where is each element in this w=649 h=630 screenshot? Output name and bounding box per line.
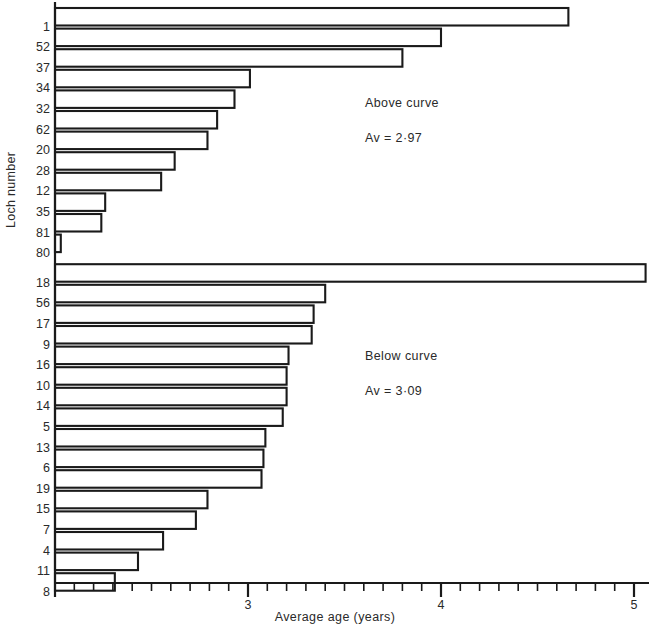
y-tick-label: 9 (22, 338, 50, 352)
bar (55, 29, 441, 46)
y-tick-label: 14 (22, 399, 50, 413)
bar (55, 347, 289, 365)
y-tick-label: 28 (22, 164, 50, 178)
y-tick-label: 35 (22, 205, 50, 219)
bar (55, 491, 207, 509)
y-tick-label: 11 (22, 564, 50, 578)
y-tick-label: 20 (22, 143, 50, 157)
y-tick-label: 12 (22, 184, 50, 198)
chart-plot-area (0, 0, 649, 630)
bar (55, 326, 312, 344)
bar (55, 173, 161, 191)
y-tick-label: 13 (22, 441, 50, 455)
x-tick-label: 3 (245, 598, 252, 612)
bar (55, 70, 250, 88)
bar (55, 90, 234, 108)
y-tick-label: 32 (22, 102, 50, 116)
bar (55, 152, 175, 170)
y-tick-label: 19 (22, 482, 50, 496)
bar (55, 305, 314, 323)
bar (55, 285, 325, 303)
y-tick-label: 17 (22, 317, 50, 331)
bar (55, 111, 217, 129)
y-tick-label: 5 (22, 420, 50, 434)
bar (55, 388, 287, 406)
bar (55, 532, 163, 550)
x-tick-label: 4 (438, 598, 445, 612)
y-tick-label: 80 (22, 246, 50, 260)
y-tick-label: 56 (22, 296, 50, 310)
bar (55, 264, 646, 282)
annotation-below-curve-average: Av = 3·09 (365, 384, 422, 398)
bars-layer (55, 8, 646, 591)
y-tick-label: 7 (22, 523, 50, 537)
bar (55, 132, 207, 150)
x-tick-label: 5 (631, 598, 638, 612)
y-tick-label: 15 (22, 502, 50, 516)
x-axis-label: Average age (years) (275, 610, 396, 624)
bar (55, 429, 265, 447)
y-tick-label: 8 (22, 585, 50, 599)
bar (55, 511, 196, 529)
chart-figure: Loch number 1523734326220281235818018561… (0, 0, 649, 630)
annotation-above-curve-average: Av = 2·97 (365, 131, 422, 145)
y-tick-label: 18 (22, 276, 50, 290)
bar (55, 470, 262, 488)
bar (55, 8, 568, 26)
annotation-below-curve-label: Below curve (365, 349, 438, 363)
y-tick-label: 16 (22, 358, 50, 372)
y-tick-label: 81 (22, 226, 50, 240)
y-tick-label: 6 (22, 461, 50, 475)
y-tick-label: 4 (22, 544, 50, 558)
y-tick-label: 1 (22, 20, 50, 34)
bar (55, 408, 283, 426)
bar (55, 367, 287, 385)
y-tick-label: 37 (22, 61, 50, 75)
annotation-above-curve-label: Above curve (365, 96, 439, 110)
y-tick-label: 10 (22, 379, 50, 393)
y-tick-label: 62 (22, 123, 50, 137)
y-tick-label: 34 (22, 81, 50, 95)
bar (55, 553, 138, 571)
bar (55, 214, 101, 232)
bar (55, 193, 105, 211)
y-tick-label: 52 (22, 40, 50, 54)
bar (55, 450, 263, 468)
bar (55, 49, 402, 66)
